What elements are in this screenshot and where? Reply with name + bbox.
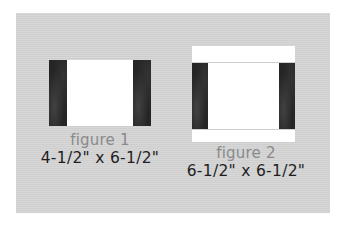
figure-1-caption: figure 1 4-1/2" x 6-1/2": [40, 132, 160, 168]
figure-1-block: [49, 60, 151, 126]
figure-2-caption: figure 2 6-1/2" x 6-1/2": [184, 145, 308, 181]
figure-2-white-center: [208, 63, 279, 129]
figure-2-left-fabric-strip: [192, 63, 208, 129]
figure-1-size: 4-1/2" x 6-1/2": [40, 149, 160, 168]
figure-1-right-fabric-strip: [133, 60, 151, 126]
figure-1-left-fabric-strip: [49, 60, 67, 126]
figure-2-size: 6-1/2" x 6-1/2": [184, 162, 308, 181]
figure-1-white-center: [67, 60, 133, 126]
figure-2-right-fabric-strip: [279, 63, 295, 129]
figure-2-label: figure 2: [184, 145, 308, 162]
figure-1-label: figure 1: [40, 132, 160, 149]
figure-2-block: [192, 62, 295, 130]
